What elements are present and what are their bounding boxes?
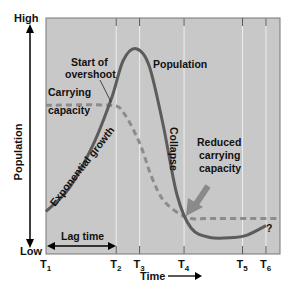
y-axis-label: Population: [12, 123, 24, 180]
lag-time-label: Lag time: [61, 230, 104, 242]
start-of-overshoot-line2: overshoot: [65, 68, 116, 80]
collapse-annotation: Collapse: [168, 127, 180, 171]
time-arrow: [168, 272, 202, 280]
population-overshoot-chart: High Low Population Start of overshoot P…: [0, 0, 295, 294]
x-tick-label: T2: [110, 258, 122, 273]
carrying-capacity-line1: Carrying: [48, 86, 91, 98]
x-tick-label: T1: [40, 258, 52, 273]
x-tick-label: T6: [260, 258, 272, 273]
question-mark: ?: [266, 222, 272, 234]
x-axis-label: Time: [140, 270, 165, 282]
reduced-capacity-line3: capacity: [199, 162, 241, 174]
reduced-capacity-line1: Reduced: [197, 136, 241, 148]
y-high-label: High: [14, 12, 39, 24]
x-tick-label: T5: [237, 258, 249, 273]
reduced-capacity-line2: carrying: [199, 149, 240, 161]
population-annotation: Population: [153, 58, 207, 70]
y-axis-arrow: [26, 24, 34, 248]
carrying-capacity-line2: capacity: [48, 104, 90, 116]
start-of-overshoot-line1: Start of: [71, 56, 108, 68]
y-low-label: Low: [20, 245, 42, 257]
x-tick-label: T4: [178, 258, 190, 273]
